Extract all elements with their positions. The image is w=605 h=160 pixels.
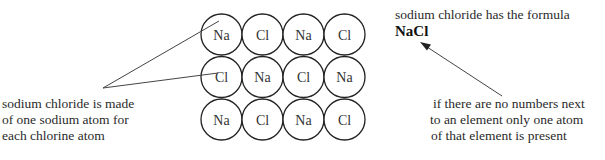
right-note: if there are no numbers next to an eleme… <box>430 96 585 144</box>
right-note-line: to an element only one atom <box>430 112 585 128</box>
atom-label: Cl <box>256 113 269 128</box>
atom-label: Na <box>254 70 271 85</box>
atom-label: Na <box>213 113 230 128</box>
arrow-head-icon <box>420 42 431 51</box>
formula: NaCl <box>395 23 570 39</box>
formula-note-text: sodium chloride has the formula <box>395 7 570 23</box>
atom-label: Cl <box>215 70 228 85</box>
atom-label: Cl <box>338 113 351 128</box>
left-note-line: sodium chloride is made <box>2 96 134 112</box>
formula-arrow <box>420 42 502 96</box>
atom-label: Na <box>213 28 230 43</box>
formula-note: sodium chloride has the formula NaCl <box>395 7 570 39</box>
atom-label: Cl <box>256 28 269 43</box>
left-note-line: each chlorine atom <box>2 128 134 144</box>
left-note: sodium chloride is made of one sodium at… <box>2 96 134 144</box>
atom-label: Cl <box>297 70 310 85</box>
right-note-line: of that element is present <box>430 128 585 144</box>
atom-label: Cl <box>338 28 351 43</box>
right-note-line: if there are no numbers next <box>430 96 585 112</box>
atom-label: Na <box>336 70 353 85</box>
atom-label: Na <box>295 113 312 128</box>
left-note-line: of one sodium atom for <box>2 112 134 128</box>
arrow-shaft <box>424 45 502 96</box>
atom-label: Na <box>295 28 312 43</box>
